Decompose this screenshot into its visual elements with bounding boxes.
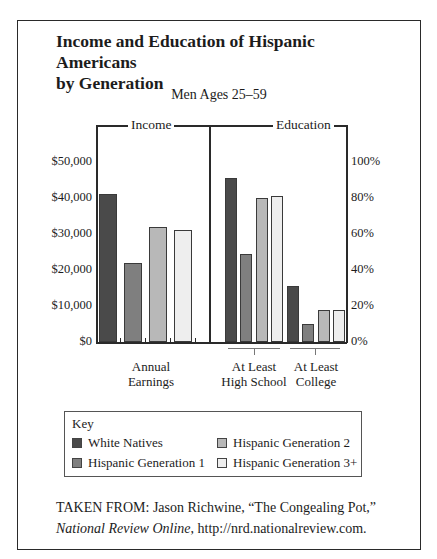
source-suffix: , http://nrd.nationalreview.com. [191,521,367,536]
income-ytick: $0 [22,334,92,348]
bar-hs-white-natives [225,178,237,342]
source-publication: National Review Online [56,521,191,536]
bar-college-gen2 [318,310,330,342]
swatch-icon [217,458,227,468]
swatch-icon [72,458,82,468]
baseline [96,342,347,344]
bar-income-white-natives [99,194,117,342]
bar-college-gen3 [333,310,345,342]
hs-group-tick [254,348,255,355]
title-line-1: Income and Education of Hispanic America… [56,31,386,73]
swatch-icon [72,438,82,448]
bar-income-gen3 [174,230,192,342]
source-citation: TAKEN FROM: Jason Richwine, “The Congeal… [56,497,416,539]
cat-line: At Least [286,359,346,374]
income-left-axis [96,125,98,343]
legend-label: Hispanic Generation 3+ [233,455,357,471]
chart-title: Income and Education of Hispanic America… [56,31,386,94]
bar-income-gen2 [149,227,167,342]
income-ytick: $40,000 [22,190,92,204]
cat-line: College [286,374,346,389]
x-tick [195,338,196,342]
category-college: At Least College [286,359,346,389]
college-group-tick [315,348,316,355]
x-tick [145,338,146,342]
category-high-school: At Least High School [214,359,294,389]
edu-ytick: 0% [351,334,368,348]
legend-label: Hispanic Generation 2 [233,435,350,451]
x-tick [170,338,171,342]
cat-line: High School [214,374,294,389]
cat-line: Annual [116,359,186,374]
cat-line: At Least [214,359,294,374]
category-annual-earnings: Annual Earnings [116,359,186,389]
legend-title: Key [72,416,94,432]
legend-label: White Natives [88,435,163,451]
income-ytick: $50,000 [22,154,92,168]
edu-ytick: 80% [351,190,374,204]
source-prefix: TAKEN FROM: Jason Richwine, “The Congeal… [56,500,376,515]
bar-hs-gen1 [240,254,252,342]
education-panel-label: Education [273,117,334,133]
panel-divider [209,125,211,343]
edu-ytick: 100% [351,154,380,168]
edu-right-axis [346,125,348,343]
bar-college-white-natives [287,286,299,342]
bar-income-gen1 [124,263,142,342]
income-ytick: $10,000 [22,298,92,312]
income-ytick: $30,000 [22,226,92,240]
legend-item-white-natives: White Natives [72,435,163,451]
swatch-icon [217,438,227,448]
legend: Key White Natives Hispanic Generation 1 … [64,411,362,477]
chart-subtitle: Men Ages 25–59 [18,87,420,103]
cat-line: Earnings [116,374,186,389]
legend-label: Hispanic Generation 1 [88,455,205,471]
legend-item-gen1: Hispanic Generation 1 [72,455,205,471]
edu-ytick: 20% [351,298,374,312]
legend-item-gen2: Hispanic Generation 2 [217,435,350,451]
bar-college-gen1 [302,324,314,342]
income-panel-label: Income [128,117,174,133]
bar-hs-gen2 [256,198,268,342]
x-tick [120,338,121,342]
edu-ytick: 60% [351,226,374,240]
bar-hs-gen3 [271,196,283,342]
edu-ytick: 40% [351,262,374,276]
chart-frame: Income and Education of Hispanic America… [17,20,421,550]
income-ytick: $20,000 [22,262,92,276]
legend-item-gen3: Hispanic Generation 3+ [217,455,357,471]
